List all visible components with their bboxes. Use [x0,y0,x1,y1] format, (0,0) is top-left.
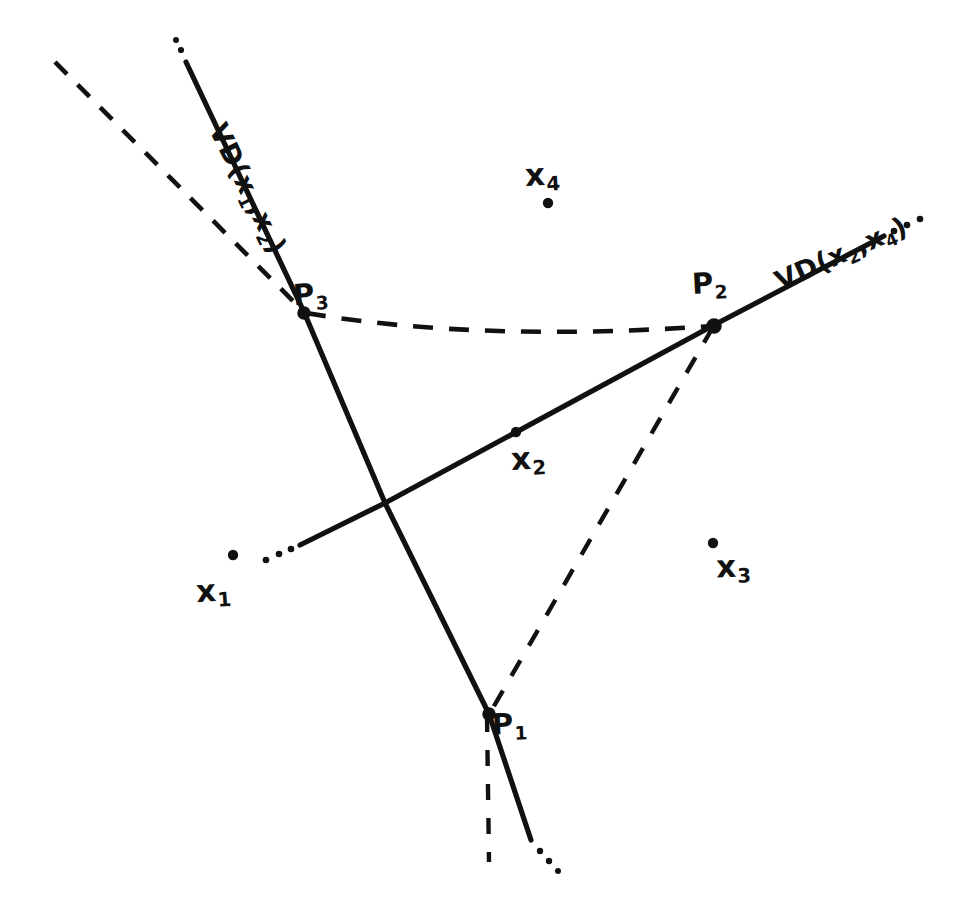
vertex-label-p1: P1 [491,706,527,741]
dashed-line-upper-left [55,62,304,312]
site-dot-x2 [511,427,521,437]
vertex-label-p3: P3 [292,276,329,312]
site-dot-x1 [228,550,238,560]
site-label-x4: x4 [524,155,561,193]
figure-canvas: x1 x2 x3 x4 P1 P2 P3 VD(x1,x2) VD(x2,x4) [0,0,963,912]
dashed-curve-p3-to-p2 [306,313,713,332]
diagram-svg [0,0,963,912]
dotted-tail-vd24-left [263,546,295,564]
site-label-x3: x3 [715,547,751,584]
site-label-x2: x2 [510,439,547,477]
dotted-tail-vd12-bottom [537,848,561,874]
site-dot-x4 [543,198,553,208]
dotted-tail-vd12-top [173,37,184,53]
site-label-x1: x1 [195,571,232,609]
site-dot-x3 [708,538,718,548]
vertex-dot-p2 [707,319,721,333]
vertex-label-p2: P2 [691,265,728,301]
dashed-line-p1-downward [487,716,489,862]
